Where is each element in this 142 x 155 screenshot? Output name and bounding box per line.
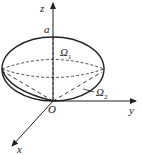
omega2-label: Ω2 (96, 86, 108, 101)
y-axis-label: y (128, 104, 134, 116)
ellipsoid-diagram: z a Ω1 Ω2 O y x (0, 0, 142, 155)
z-axis-label: z (39, 2, 45, 14)
top-point-label: a (44, 23, 50, 35)
omega1-label: Ω1 (60, 46, 72, 61)
x-axis (12, 101, 53, 146)
x-axis-label: x (16, 143, 22, 155)
origin-label: O (48, 103, 56, 115)
